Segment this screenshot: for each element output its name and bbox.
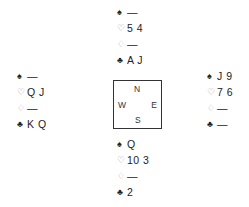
compass-table: N W E S bbox=[113, 80, 162, 129]
west-diamonds: ♢— bbox=[17, 100, 47, 116]
spade-icon: ♠ bbox=[207, 68, 217, 84]
east-hearts: ♡7 6 bbox=[207, 84, 233, 100]
west-hearts: ♡Q J bbox=[17, 84, 47, 100]
spade-icon: ♠ bbox=[17, 68, 27, 84]
east-label: E bbox=[151, 100, 157, 110]
west-hand: ♠— ♡Q J ♢— ♣K Q bbox=[17, 68, 47, 132]
heart-icon: ♡ bbox=[17, 84, 27, 100]
east-clubs: ♣— bbox=[207, 116, 233, 132]
diamond-icon: ♢ bbox=[17, 100, 27, 116]
diamond-icon: ♢ bbox=[117, 36, 127, 52]
north-diamonds: ♢— bbox=[117, 36, 143, 52]
heart-icon: ♡ bbox=[117, 152, 127, 168]
south-hand: ♠Q ♡10 3 ♢— ♣2 bbox=[117, 136, 149, 200]
south-spades: ♠Q bbox=[117, 136, 149, 152]
east-hand: ♠J 9 ♡7 6 ♢— ♣— bbox=[207, 68, 233, 132]
diamond-icon: ♢ bbox=[207, 100, 217, 116]
heart-icon: ♡ bbox=[207, 84, 217, 100]
heart-icon: ♡ bbox=[117, 20, 127, 36]
north-hand: ♠— ♡5 4 ♢— ♣A J bbox=[117, 4, 143, 68]
spade-icon: ♠ bbox=[117, 4, 127, 20]
club-icon: ♣ bbox=[17, 116, 27, 132]
east-diamonds: ♢— bbox=[207, 100, 233, 116]
north-spades: ♠— bbox=[117, 4, 143, 20]
spade-icon: ♠ bbox=[117, 136, 127, 152]
west-clubs: ♣K Q bbox=[17, 116, 47, 132]
west-label: W bbox=[118, 100, 126, 110]
diamond-icon: ♢ bbox=[117, 168, 127, 184]
club-icon: ♣ bbox=[117, 52, 127, 68]
north-label: N bbox=[134, 84, 140, 94]
south-label: S bbox=[135, 115, 141, 125]
west-spades: ♠— bbox=[17, 68, 47, 84]
north-hearts: ♡5 4 bbox=[117, 20, 143, 36]
club-icon: ♣ bbox=[117, 184, 127, 200]
south-clubs: ♣2 bbox=[117, 184, 149, 200]
club-icon: ♣ bbox=[207, 116, 217, 132]
south-diamonds: ♢— bbox=[117, 168, 149, 184]
east-spades: ♠J 9 bbox=[207, 68, 233, 84]
north-clubs: ♣A J bbox=[117, 52, 143, 68]
south-hearts: ♡10 3 bbox=[117, 152, 149, 168]
